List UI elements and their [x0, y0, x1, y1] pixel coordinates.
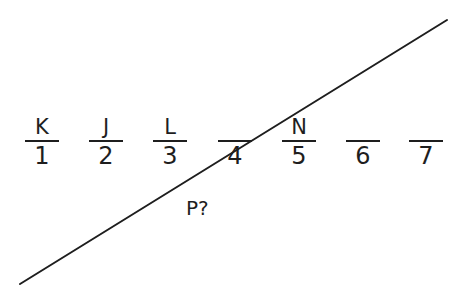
slot-number: 5 — [282, 142, 316, 170]
slot-number: 2 — [89, 142, 123, 170]
slot-letter: J — [89, 116, 123, 138]
slot-letter: N — [282, 116, 316, 138]
ordering-diagram: K 1 J 2 L 3 4 N 5 6 7 P? — [0, 0, 459, 298]
slot-number: 7 — [409, 142, 443, 170]
slot-letter: L — [153, 116, 187, 138]
slot-number: 6 — [346, 142, 380, 170]
slot-letter — [218, 116, 252, 138]
slot-number: 3 — [153, 142, 187, 170]
slot-number: 1 — [25, 142, 59, 170]
slot-letter — [409, 116, 443, 138]
slot-letter — [346, 116, 380, 138]
slot-letter: K — [25, 116, 59, 138]
question-label: P? — [186, 196, 209, 220]
slot-number: 4 — [218, 142, 252, 170]
